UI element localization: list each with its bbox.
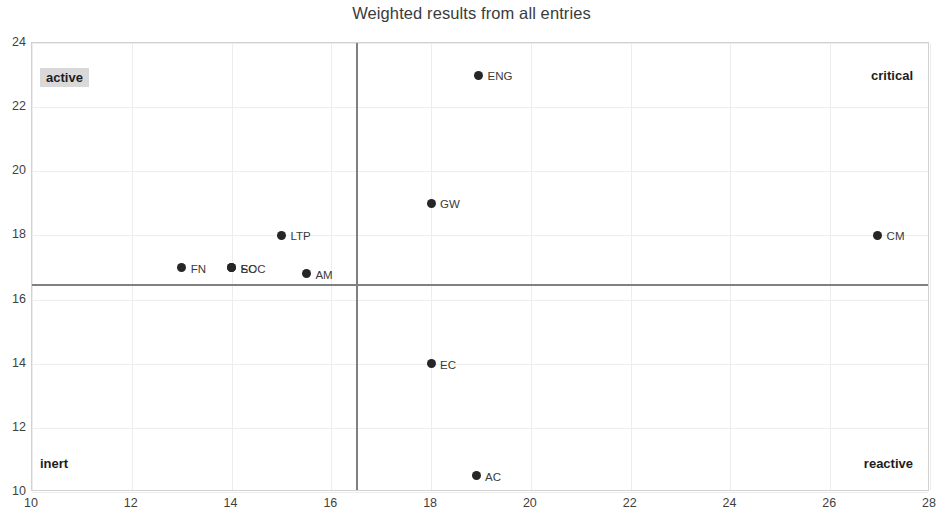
y-axis-tick-label: 16 bbox=[12, 292, 26, 306]
gridline-vertical bbox=[32, 43, 33, 490]
x-axis-tick-label: 10 bbox=[24, 496, 38, 510]
x-axis-tick-label: 18 bbox=[423, 496, 437, 510]
y-axis-tick-label: 24 bbox=[12, 35, 26, 49]
data-point-label: EC bbox=[440, 359, 456, 371]
x-axis-tick-label: 24 bbox=[722, 496, 736, 510]
y-axis-tick-label: 22 bbox=[12, 99, 26, 113]
gridline-horizontal bbox=[32, 300, 928, 301]
y-axis-tick-label: 20 bbox=[12, 163, 26, 177]
y-axis-tick-label: 14 bbox=[12, 356, 26, 370]
chart-screenshot: Weighted results from all entries ENGGWC… bbox=[0, 0, 943, 519]
gridline-horizontal bbox=[32, 428, 928, 429]
data-point-label: FN bbox=[191, 263, 206, 275]
x-axis-tick-label: 16 bbox=[323, 496, 337, 510]
quadrant-divider-vertical bbox=[356, 43, 358, 490]
gridline-vertical bbox=[531, 43, 532, 490]
gridline-vertical bbox=[730, 43, 731, 490]
x-axis-tick-label: 20 bbox=[523, 496, 537, 510]
quadrant-divider-horizontal bbox=[32, 284, 928, 286]
gridline-horizontal bbox=[32, 235, 928, 236]
data-point[interactable] bbox=[873, 231, 882, 240]
data-point-label: AM bbox=[315, 269, 332, 281]
data-point-label: EC bbox=[241, 263, 257, 275]
gridline-vertical bbox=[930, 43, 931, 490]
y-axis-tick-label: 12 bbox=[12, 420, 26, 434]
data-point[interactable] bbox=[427, 199, 436, 208]
gridline-horizontal bbox=[32, 43, 928, 44]
gridline-horizontal bbox=[32, 107, 928, 108]
gridline-vertical bbox=[431, 43, 432, 490]
data-point[interactable] bbox=[277, 231, 286, 240]
x-axis-tick-label: 26 bbox=[822, 496, 836, 510]
data-point-label: ENG bbox=[488, 70, 513, 82]
x-axis-tick-label: 14 bbox=[224, 496, 238, 510]
plot-area: ENGGWCMLTPFNSOCECAMECAC bbox=[31, 42, 929, 491]
y-axis-tick-label: 18 bbox=[12, 227, 26, 241]
data-point[interactable] bbox=[302, 269, 311, 278]
gridline-vertical bbox=[132, 43, 133, 490]
quadrant-label-inert: inert bbox=[40, 456, 68, 471]
quadrant-label-critical: critical bbox=[871, 68, 913, 83]
data-point-label: AC bbox=[485, 471, 501, 483]
y-axis-tick-label: 10 bbox=[12, 484, 26, 498]
gridline-horizontal bbox=[32, 171, 928, 172]
x-axis-tick-label: 22 bbox=[623, 496, 637, 510]
gridline-vertical bbox=[631, 43, 632, 490]
quadrant-label-reactive: reactive bbox=[864, 456, 913, 471]
gridline-horizontal bbox=[32, 364, 928, 365]
data-point[interactable] bbox=[227, 263, 236, 272]
chart-title: Weighted results from all entries bbox=[0, 4, 943, 23]
gridline-vertical bbox=[331, 43, 332, 490]
data-point-label: GW bbox=[440, 198, 460, 210]
gridline-horizontal bbox=[32, 492, 928, 493]
data-point[interactable] bbox=[177, 263, 186, 272]
data-point-label: LTP bbox=[290, 230, 310, 242]
data-point[interactable] bbox=[474, 71, 483, 80]
x-axis-tick-label: 28 bbox=[922, 496, 936, 510]
data-point[interactable] bbox=[472, 471, 481, 480]
data-point-label: CM bbox=[887, 230, 905, 242]
data-point[interactable] bbox=[427, 359, 436, 368]
gridline-vertical bbox=[830, 43, 831, 490]
x-axis-tick-label: 12 bbox=[124, 496, 138, 510]
quadrant-label-active: active bbox=[40, 68, 89, 87]
